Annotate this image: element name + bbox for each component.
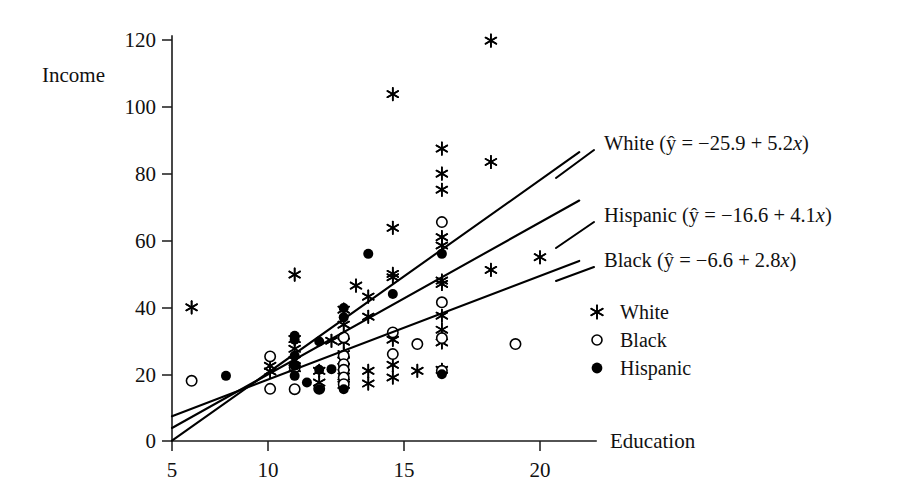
data-point-white — [437, 167, 448, 179]
data-point-black — [186, 376, 196, 386]
scatter-plot-figure: 120 100 80 60 40 20 0 5 10 15 20 Income … — [0, 0, 906, 501]
data-point-white — [387, 222, 398, 234]
data-point-white — [535, 251, 546, 263]
equation-white-xvar: x — [792, 132, 802, 154]
axes-group — [172, 36, 596, 441]
legend-marker-hispanic-filled-circle — [592, 363, 603, 374]
data-point-black — [437, 333, 447, 343]
equation-hispanic: Hispanic (ŷ = −16.6 + 4.1x) — [604, 204, 832, 227]
data-point-white — [437, 142, 448, 154]
y-axis-title: Income — [42, 63, 105, 87]
equation-white-paren: ) — [802, 132, 809, 155]
legend: White Black Hispanic — [591, 301, 691, 380]
leader-line-black — [556, 267, 594, 281]
data-point-black — [265, 351, 275, 361]
data-point-hispanic — [314, 365, 324, 375]
legend-label-white: White — [620, 301, 669, 323]
data-point-hispanic — [363, 249, 373, 259]
data-point-black — [289, 384, 299, 394]
fit-line-black — [172, 261, 579, 416]
data-point-white — [437, 184, 448, 196]
data-point-white — [363, 377, 374, 389]
y-tick-label-0: 0 — [146, 429, 157, 453]
legend-label-hispanic: Hispanic — [620, 357, 691, 380]
equation-hispanic-paren: ) — [825, 204, 832, 227]
legend-label-black: Black — [620, 329, 667, 351]
plot-canvas: 120 100 80 60 40 20 0 5 10 15 20 Income … — [0, 0, 906, 501]
data-point-white — [486, 264, 497, 276]
equation-black-xvar: x — [779, 249, 789, 271]
data-point-white — [387, 359, 398, 371]
data-point-hispanic — [339, 384, 349, 394]
legend-marker-white-asterisk — [591, 305, 602, 318]
data-point-black — [510, 339, 520, 349]
y-tick-label-20: 20 — [135, 363, 156, 387]
data-point-white — [486, 34, 497, 46]
y-tick-label-40: 40 — [135, 296, 156, 320]
fit-line-white — [172, 152, 579, 440]
equation-leader-lines — [556, 150, 594, 281]
data-point-hispanic — [290, 371, 300, 381]
x-tick-label-15: 15 — [394, 458, 415, 482]
y-tick-label-100: 100 — [125, 95, 157, 119]
x-tick-label-10: 10 — [258, 458, 279, 482]
data-point-white — [186, 301, 197, 313]
equation-white-group: White — [604, 132, 654, 154]
regression-lines-layer — [172, 152, 579, 440]
equation-black-body: (ŷ = −6.6 + 2.8 — [657, 249, 781, 272]
data-point-hispanic — [339, 303, 349, 313]
equation-hispanic-body: (ŷ = −16.6 + 4.1 — [682, 204, 816, 227]
data-point-hispanic — [221, 371, 231, 381]
x-axis-ticks: 5 10 15 20 — [167, 441, 551, 482]
data-point-black — [265, 384, 275, 394]
legend-marker-black-open-circle — [592, 335, 602, 345]
equation-black-paren: ) — [790, 249, 797, 272]
equation-hispanic-xvar: x — [815, 204, 825, 226]
y-axis-ticks: 120 100 80 60 40 20 0 — [125, 28, 173, 453]
data-point-black — [437, 297, 447, 307]
data-point-hispanic — [290, 335, 300, 345]
data-point-white — [289, 268, 300, 280]
data-point-hispanic — [314, 384, 324, 394]
data-point-white — [486, 156, 497, 168]
equation-hispanic-group: Hispanic — [604, 204, 677, 227]
equation-white: White (ŷ = −25.9 + 5.2x) — [604, 132, 809, 155]
equation-white-body: (ŷ = −25.9 + 5.2 — [659, 132, 793, 155]
x-tick-label-20: 20 — [530, 458, 551, 482]
data-point-white — [363, 365, 374, 377]
data-point-black — [388, 349, 398, 359]
series-black — [186, 217, 520, 394]
data-point-hispanic — [302, 378, 312, 388]
data-point-black — [412, 339, 422, 349]
data-point-hispanic — [388, 289, 398, 299]
x-axis-title: Education — [610, 429, 696, 453]
y-tick-label-80: 80 — [135, 162, 156, 186]
data-point-white — [387, 371, 398, 383]
data-point-hispanic — [437, 369, 447, 379]
data-point-hispanic — [326, 364, 336, 374]
equation-black: Black (ŷ = −6.6 + 2.8x) — [604, 249, 796, 272]
leader-line-hispanic — [556, 222, 594, 248]
data-point-black — [437, 217, 447, 227]
series-white — [186, 34, 545, 391]
legend-asterisk-glyph — [591, 305, 602, 318]
data-point-white — [351, 279, 362, 291]
data-point-white — [412, 365, 423, 377]
equation-black-group: Black — [604, 249, 653, 271]
y-tick-label-120: 120 — [125, 28, 157, 52]
equation-annotations: White (ŷ = −25.9 + 5.2x) Hispanic (ŷ = −… — [604, 132, 832, 272]
x-tick-label-5: 5 — [167, 458, 178, 482]
y-tick-label-60: 60 — [135, 229, 156, 253]
data-point-white — [387, 88, 398, 100]
